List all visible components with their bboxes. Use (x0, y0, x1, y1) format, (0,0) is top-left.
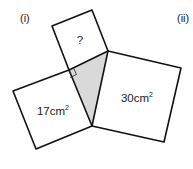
part-ii-label: (ii) (177, 12, 189, 24)
top-square-label: ? (77, 34, 83, 46)
right-triangle (69, 51, 108, 126)
left-square-area: 17cm2 (37, 104, 69, 117)
right-square-area: 30cm2 (121, 91, 153, 104)
pythagoras-diagram (0, 0, 193, 169)
part-i-label: (i) (20, 12, 30, 24)
